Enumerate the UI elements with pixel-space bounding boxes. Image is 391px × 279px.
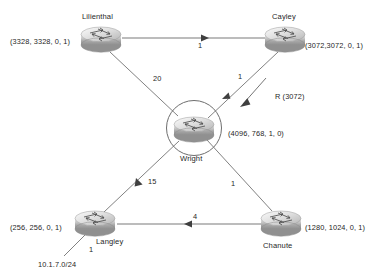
router-icon-lilienthal[interactable]: [81, 27, 121, 52]
node-attributes-chanute: (1280, 1024, 0, 1): [305, 224, 365, 231]
arrowhead-lilienthal-cayley: [201, 35, 209, 42]
router-icon-langley[interactable]: [75, 211, 115, 236]
stub-network-label: 10.1.7.0/24: [38, 261, 76, 268]
node-label-cayley: Cayley: [272, 13, 296, 21]
link-cost-wright-chanute: 1: [231, 180, 235, 187]
link-cost-cayley-wright: 1: [238, 73, 242, 80]
node-label-chanute: Chanute: [263, 242, 292, 250]
node-label-lilienthal: Lilienthal: [82, 13, 113, 21]
link-cost-chanute-langley: 4: [193, 213, 197, 220]
arrowhead-chanute-langley: [184, 221, 192, 228]
node-label-langley: Langley: [96, 238, 123, 246]
arrowhead-cayley-wright: [222, 92, 230, 99]
router-icon-chanute[interactable]: [261, 211, 301, 236]
node-attributes-wright: (4096, 768, 1, 0): [228, 130, 284, 137]
route-annotation-arrow: [240, 78, 266, 107]
network-diagram: Lilienthal Cayley Wright Langley Chanute…: [0, 0, 391, 279]
link-wright-chanute: [207, 140, 272, 211]
link-lilienthal-wright: [110, 52, 178, 116]
node-attributes-cayley: (3072,3072, 0, 1): [305, 42, 363, 49]
link-cost-lilienthal-cayley: 1: [198, 42, 202, 49]
router-icon-wright[interactable]: [174, 117, 214, 142]
node-attributes-lilienthal: (3328, 3328, 0, 1): [10, 38, 70, 45]
link-cost-lilienthal-wright: 20: [153, 75, 161, 82]
link-cayley-wright: [208, 52, 278, 118]
link-cost-langley-stub: 1: [89, 246, 93, 253]
link-langley-stub: [64, 234, 86, 256]
node-attributes-langley: (256, 256, 0, 1): [10, 224, 62, 231]
router-icon-cayley[interactable]: [265, 27, 305, 52]
link-cost-langley-wright: 15: [148, 178, 156, 185]
node-label-wright: Wright: [180, 155, 202, 163]
route-annotation-label: R (3072): [275, 93, 305, 100]
link-langley-wright: [104, 141, 179, 212]
